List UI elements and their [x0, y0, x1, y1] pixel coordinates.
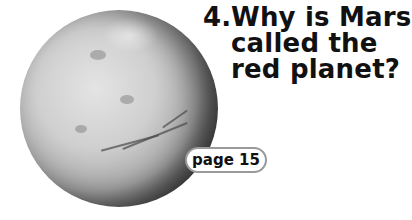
- question-number: 4.: [203, 4, 231, 30]
- crater: [90, 50, 106, 60]
- question-line-2: called the: [203, 30, 412, 56]
- crater: [75, 125, 87, 133]
- question-line-1: 4.Why is Mars: [203, 4, 412, 30]
- page-reference-badge[interactable]: page 15: [185, 147, 267, 173]
- crater: [120, 95, 134, 104]
- page-reference-label: page 15: [192, 151, 260, 169]
- question-text: 4.Why is Mars called the red planet?: [203, 4, 412, 82]
- question-line-3: red planet?: [203, 56, 412, 82]
- valley-streak: [101, 134, 159, 151]
- mars-planet-image: [20, 10, 218, 207]
